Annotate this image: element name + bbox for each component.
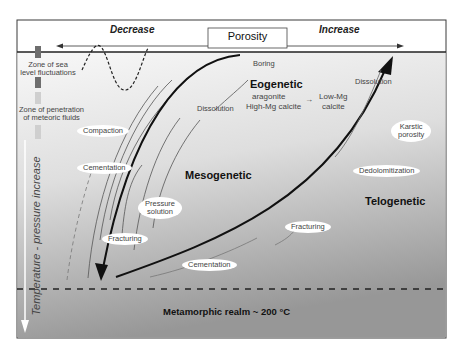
mineral-aragonite: aragonite: [252, 93, 285, 101]
decrease-label: Decrease: [110, 25, 154, 36]
mesogenetic-label: Mesogenetic: [185, 170, 252, 182]
meteoric-zone-label: Zone of penetration of meteoric fluids: [14, 106, 89, 122]
eogenetic-label: Eogenetic: [250, 79, 303, 91]
meteoric-zone-bar-lower: [35, 125, 41, 139]
sea-level-zone-label: Zone of sea level fluctuations: [19, 61, 77, 77]
sea-level-zone-bar-bottom: [35, 77, 41, 88]
pressure-solution-line2: solution: [145, 208, 175, 216]
process-dedolomitization: Dedolomitization: [353, 165, 420, 177]
porosity-label: Porosity: [208, 31, 287, 43]
depth-axis-label: Temperature - pressure increase: [31, 156, 43, 315]
sea-level-zone-line2: level fluctuations: [19, 69, 77, 77]
process-pressure-solution: Pressure solution: [138, 197, 182, 219]
process-karstic-porosity: Karstic porosity: [391, 120, 431, 142]
mineral-arrow: →: [305, 96, 313, 104]
process-fracturing-right: Fracturing: [285, 221, 331, 233]
increase-label: Increase: [319, 25, 360, 36]
process-dissolution-telogenetic: Dissolution: [355, 78, 392, 86]
karstic-line2: porosity: [398, 131, 424, 139]
process-compaction: Compaction: [77, 125, 129, 137]
process-fracturing-left: Fracturing: [102, 233, 148, 245]
mineral-high-mg-calcite: High-Mg calcite: [246, 103, 301, 111]
meteoric-zone-line2: of meteoric fluids: [14, 114, 89, 122]
process-cementation-bottom: Cementation: [182, 259, 237, 271]
process-cementation-left: Cementation: [77, 162, 132, 174]
metamorphic-realm-label: Metamorphic realm ~ 200 °C: [163, 307, 290, 317]
sea-level-zone-bar-top: [35, 46, 41, 58]
mineral-low-mg: Low-Mg: [319, 93, 347, 101]
mineral-calcite: calcite: [322, 103, 345, 111]
process-dissolution-eogenetic: Dissolution: [197, 105, 234, 113]
meteoric-zone-bar: [35, 92, 41, 104]
telogenetic-label: Telogenetic: [365, 196, 425, 208]
process-boring: Boring: [253, 60, 275, 68]
